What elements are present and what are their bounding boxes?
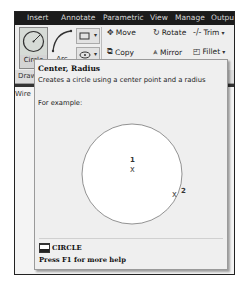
fillet-button[interactable]: ◰ Fillet ▾ xyxy=(193,47,225,56)
viewport-style-label[interactable]: Wire xyxy=(15,90,31,98)
mirror-icon: ⩓ xyxy=(153,47,158,57)
copy-icon: ⧉ xyxy=(107,47,113,57)
rectangle-icon xyxy=(79,31,91,41)
move-icon: ✥ xyxy=(107,28,114,37)
chevron-down-icon[interactable]: ▾ xyxy=(94,50,97,57)
rotate-icon: ↻ xyxy=(153,28,160,37)
chevron-down-icon[interactable]: ▾ xyxy=(221,29,224,36)
chevron-down-icon[interactable]: ▾ xyxy=(94,31,97,38)
rotate-button[interactable]: ↻ Rotate xyxy=(153,28,186,37)
arc-icon xyxy=(49,27,75,54)
trim-icon: -/- xyxy=(193,28,201,37)
radius-point-marker: x xyxy=(172,190,177,199)
ribbon-tab-bar: Insert Annotate Parametric View Manage O… xyxy=(15,12,234,25)
command-tooltip: Center, Radius Creates a circle using a … xyxy=(34,59,228,270)
tooltip-title: Center, Radius xyxy=(38,64,100,73)
command-name: CIRCLE xyxy=(52,244,82,252)
help-hint: Press F1 for more help xyxy=(39,256,126,264)
tooltip-example-label: For example: xyxy=(38,99,82,107)
point-2-label: 2 xyxy=(181,187,186,195)
tooltip-divider xyxy=(39,238,223,239)
command-name-row: CIRCLE xyxy=(39,243,82,253)
mirror-button[interactable]: ⩓ Mirror xyxy=(153,47,182,57)
chevron-down-icon[interactable]: ▾ xyxy=(222,48,225,55)
trim-button[interactable]: -/- Trim ▾ xyxy=(193,28,224,37)
tooltip-description: Creates a circle using a center point an… xyxy=(38,76,206,84)
mirror-label: Mirror xyxy=(160,48,182,57)
circle-icon xyxy=(20,28,47,55)
rotate-label: Rotate xyxy=(162,28,187,37)
tab-annotate[interactable]: Annotate xyxy=(61,13,95,22)
fillet-icon: ◰ xyxy=(193,47,201,56)
command-line-icon xyxy=(39,243,50,253)
tab-output[interactable]: Output xyxy=(211,13,235,22)
move-button[interactable]: ✥ Move xyxy=(107,28,136,37)
rectangle-button[interactable]: ▾ xyxy=(76,28,100,44)
copy-label: Copy xyxy=(115,48,134,57)
fillet-label: Fillet xyxy=(203,47,221,56)
tab-view[interactable]: View xyxy=(150,13,168,22)
move-label: Move xyxy=(116,28,136,37)
tab-manage[interactable]: Manage xyxy=(175,13,205,22)
circle-example-diagram xyxy=(35,118,227,236)
trim-label: Trim xyxy=(203,28,219,37)
tab-insert[interactable]: Insert xyxy=(27,13,49,22)
center-point-marker: x xyxy=(130,165,135,174)
copy-button[interactable]: ⧉ Copy xyxy=(107,47,134,57)
tab-parametric[interactable]: Parametric xyxy=(103,13,144,22)
point-1-label: 1 xyxy=(130,156,135,164)
